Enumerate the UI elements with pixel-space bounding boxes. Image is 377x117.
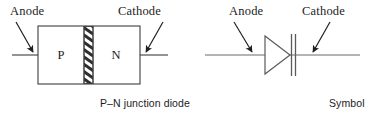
diode-triangle bbox=[265, 36, 290, 74]
p-region-letter: P bbox=[58, 48, 65, 62]
cathode-pointer-arrow bbox=[146, 22, 163, 52]
label-anode-pn: Anode bbox=[10, 5, 44, 18]
pn-junction-diagram: P N bbox=[12, 22, 168, 84]
diode-figure: P N Anode Cathode Anode Cathode P–N junc bbox=[0, 0, 377, 117]
caption-symbol: Symbol bbox=[329, 98, 365, 109]
label-anode-symbol: Anode bbox=[229, 5, 263, 18]
anode-pointer-arrow bbox=[16, 22, 33, 52]
label-cathode-pn: Cathode bbox=[118, 5, 161, 18]
n-region-letter: N bbox=[111, 48, 120, 62]
diode-symbol-diagram bbox=[205, 22, 360, 76]
junction-region bbox=[84, 27, 93, 84]
symbol-cathode-pointer-arrow bbox=[313, 22, 330, 52]
caption-pn-junction-diode: P–N junction diode bbox=[100, 98, 190, 109]
label-cathode-symbol: Cathode bbox=[302, 5, 345, 18]
symbol-anode-pointer-arrow bbox=[234, 22, 252, 52]
